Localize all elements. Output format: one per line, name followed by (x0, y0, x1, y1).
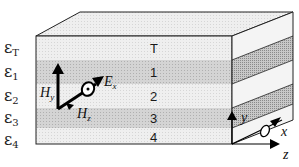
layer-1 (36, 60, 232, 84)
layer-4 (36, 128, 232, 144)
front-face-layers (36, 36, 232, 144)
layer-label-2: 2 (150, 89, 157, 104)
layer-label-3: 3 (150, 111, 157, 126)
eps-1-label: ε1 (4, 62, 19, 82)
z-axis-arrowhead-icon (270, 139, 280, 149)
y-axis-label: y (239, 110, 248, 125)
layer-3 (36, 108, 232, 128)
x-axis-label: x (280, 124, 288, 139)
layer-label-4: 4 (150, 130, 157, 145)
z-axis-label: z (282, 147, 289, 162)
layer-label-1: 1 (150, 65, 157, 80)
eps-2-label: ε2 (4, 86, 19, 106)
eps-4-label: ε4 (4, 130, 19, 150)
permittivity-labels: εT ε1 ε2 ε3 ε4 (4, 38, 19, 150)
layer-T (36, 36, 232, 60)
multilayer-slab-diagram: εT ε1 ε2 ε3 ε4 T 1 2 3 4 Hy Ex Hz (0, 0, 299, 167)
layer-label-T: T (150, 41, 158, 56)
eps-3-label: ε3 (4, 108, 19, 128)
eps-T-label: εT (4, 38, 19, 58)
